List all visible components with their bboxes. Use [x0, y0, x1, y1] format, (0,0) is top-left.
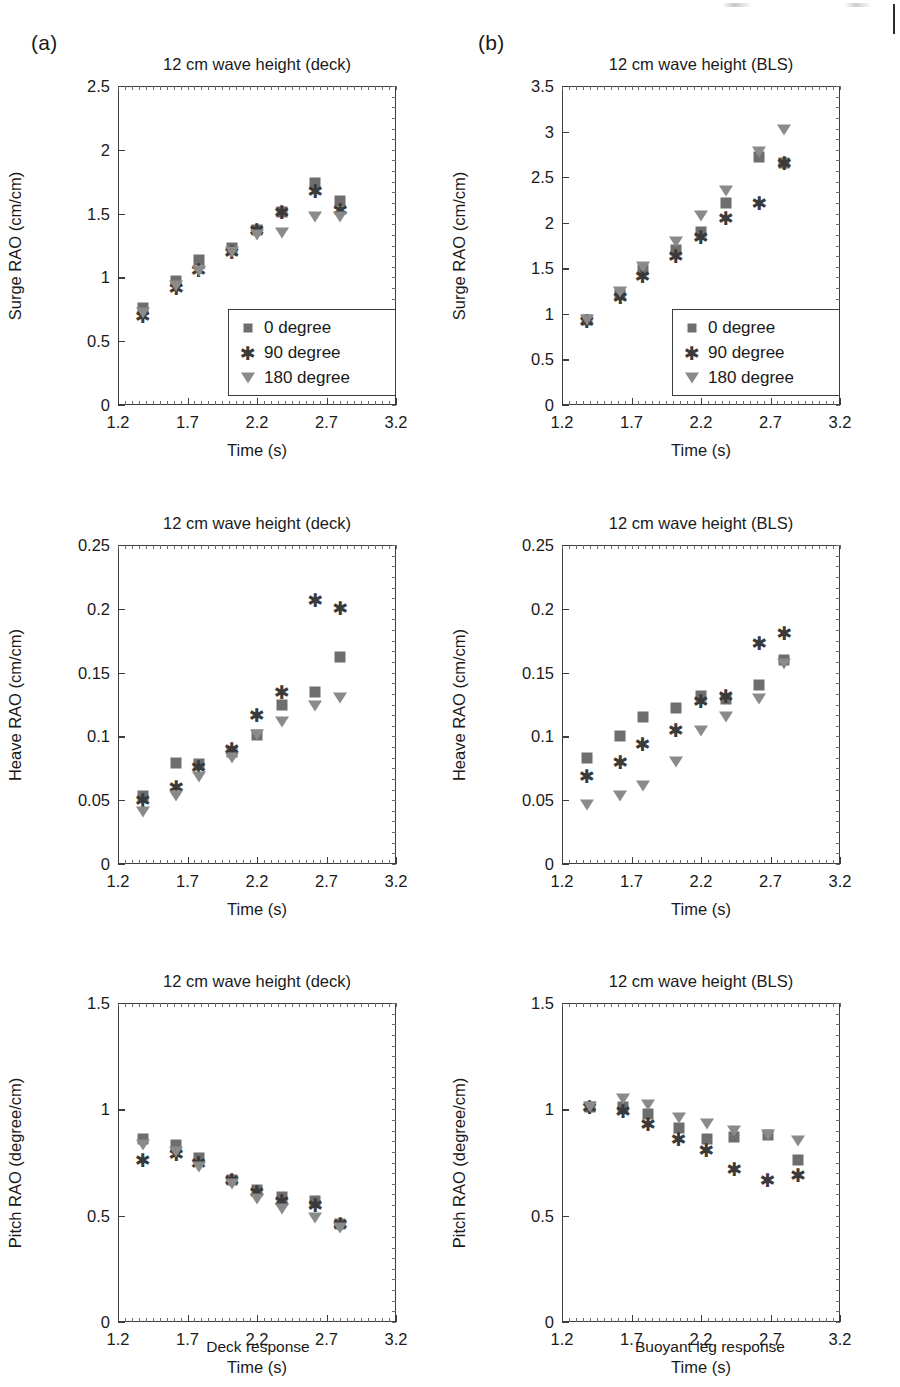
y-tick-label: 0.5	[46, 332, 110, 351]
minor-tick-right	[836, 694, 840, 695]
minor-tick-bottom	[201, 401, 202, 405]
y-tick-label: 0.05	[46, 791, 110, 810]
minor-tick-top	[764, 86, 765, 90]
minor-tick-top	[638, 86, 639, 90]
minor-tick-right	[836, 747, 840, 748]
marker-star-icon: ✱	[699, 1144, 715, 1155]
minor-tick-right	[836, 86, 840, 87]
x-tick	[118, 398, 119, 405]
legend-item[interactable]: 0 degree	[236, 315, 386, 340]
minor-tick-right	[836, 821, 840, 822]
minor-tick-bottom	[222, 401, 223, 405]
marker-triangle-down-icon	[636, 781, 650, 792]
minor-tick-right	[836, 1194, 840, 1195]
legend-item[interactable]: ✱90 degree	[236, 340, 386, 365]
minor-tick-bottom	[708, 860, 709, 864]
minor-tick-top	[583, 1003, 584, 1007]
y-axis-label: Heave RAO (cm/cm)	[450, 628, 469, 780]
minor-tick-bottom	[625, 860, 626, 864]
x-tick-label: 1.2	[107, 1330, 130, 1349]
minor-tick-bottom	[174, 860, 175, 864]
minor-tick-bottom	[306, 1318, 307, 1322]
y-tick-label: 0	[46, 855, 110, 874]
x-tick	[701, 857, 702, 864]
legend-item[interactable]: 0 degree	[680, 315, 830, 340]
minor-tick-right	[836, 1269, 840, 1270]
marker-triangle-down-icon	[308, 212, 322, 223]
marker-star-icon: ✱	[684, 347, 700, 358]
minor-tick-right	[836, 577, 840, 578]
marker-triangle-down-icon	[225, 246, 239, 257]
legend-item[interactable]: ✱90 degree	[680, 340, 830, 365]
marker-triangle-down-icon	[225, 753, 239, 764]
minor-tick-bottom	[645, 860, 646, 864]
y-tick	[118, 405, 125, 406]
legend-item[interactable]: 180 degree	[680, 365, 830, 390]
minor-tick-top	[236, 86, 237, 90]
y-axis-label: Pitch RAO (degree/cm)	[6, 1077, 25, 1248]
marker-triangle-down-icon	[136, 1140, 150, 1151]
x-tick	[632, 857, 633, 864]
y-tick-label: 1.5	[490, 994, 554, 1013]
minor-tick-bottom	[243, 1318, 244, 1322]
y-tick	[562, 1322, 569, 1323]
minor-tick-right	[836, 651, 840, 652]
y-tick	[562, 177, 569, 178]
marker-triangle-down-icon	[694, 726, 708, 737]
minor-tick-right	[836, 1056, 840, 1057]
minor-tick-top	[208, 545, 209, 549]
minor-tick-bottom	[694, 860, 695, 864]
minor-tick-top	[292, 545, 293, 549]
y-axis-label: Pitch RAO (degree/cm)	[450, 1077, 469, 1248]
x-tick-label: 1.2	[107, 872, 130, 891]
minor-tick-right	[836, 246, 840, 247]
legend-label: 0 degree	[260, 318, 331, 338]
minor-tick-right	[836, 811, 840, 812]
marker-triangle-down-icon	[169, 281, 183, 292]
marker-triangle-down-icon	[583, 1102, 597, 1113]
marker-star-icon: ✱	[240, 347, 256, 358]
marker-triangle-down-icon	[669, 236, 683, 247]
minor-tick-right	[836, 171, 840, 172]
minor-tick-top	[638, 1003, 639, 1007]
x-tick	[771, 1315, 772, 1322]
minor-tick-right	[392, 651, 396, 652]
y-axis-label: Surge RAO (cm/cm)	[6, 171, 25, 320]
minor-tick-bottom	[264, 860, 265, 864]
minor-tick-right	[836, 864, 840, 865]
minor-tick-right	[392, 747, 396, 748]
y-tick-label: 3.5	[490, 77, 554, 96]
chart-title: 12 cm wave height (deck)	[78, 972, 436, 991]
marker-star-icon: ✱	[612, 756, 628, 767]
minor-tick-top	[729, 545, 730, 549]
x-tick	[840, 857, 841, 864]
marker-star-icon: ✱	[274, 207, 290, 218]
minor-tick-top	[611, 1003, 612, 1007]
minor-tick-right	[392, 641, 396, 642]
y-tick-label: 1.5	[490, 259, 554, 278]
minor-tick-bottom	[569, 401, 570, 405]
y-tick-label: 0	[490, 855, 554, 874]
legend-item[interactable]: 180 degree	[236, 365, 386, 390]
y-tick	[562, 864, 569, 865]
minor-tick-bottom	[264, 401, 265, 405]
minor-tick-bottom	[361, 1318, 362, 1322]
x-tick	[840, 1315, 841, 1322]
minor-tick-top	[347, 1003, 348, 1007]
minor-tick-top	[250, 1003, 251, 1007]
x-axis-label: Time (s)	[562, 441, 840, 460]
minor-tick-top	[160, 86, 161, 90]
minor-tick-bottom	[153, 860, 154, 864]
minor-tick-top	[652, 545, 653, 549]
marker-star-icon: ✱	[135, 1155, 151, 1166]
minor-tick-right	[836, 566, 840, 567]
marker-square-icon	[670, 703, 681, 714]
marker-triangle-down-icon	[791, 1136, 805, 1147]
minor-tick-top	[777, 545, 778, 549]
marker-star-icon: ✱	[307, 594, 323, 605]
minor-tick-bottom	[729, 401, 730, 405]
x-tick-label: 3.2	[829, 1330, 852, 1349]
minor-tick-bottom	[611, 401, 612, 405]
minor-tick-top	[271, 1003, 272, 1007]
legend-label: 180 degree	[704, 368, 794, 388]
